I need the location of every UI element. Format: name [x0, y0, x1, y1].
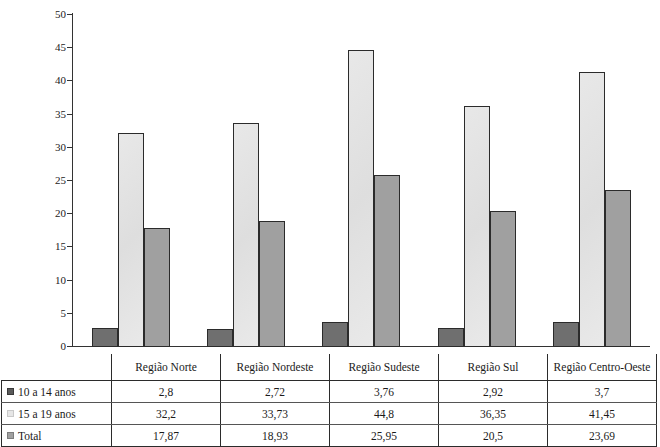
bar[interactable] [464, 106, 490, 347]
table-row: Total17,8718,9325,9520,523,69 [2, 425, 657, 447]
table-column-header: Região Nordeste [221, 354, 330, 381]
bar[interactable] [579, 72, 605, 347]
legend-cell: Total [2, 425, 112, 447]
table-column-header: Região Sudeste [330, 354, 439, 381]
y-axis-tick-labels: 50454035302520151050 [38, 0, 66, 355]
bar[interactable] [92, 328, 118, 347]
data-table: Região NorteRegião NordesteRegião Sudest… [1, 354, 657, 447]
table-cell-value: 18,93 [221, 425, 330, 447]
table-cell-value: 25,95 [330, 425, 439, 447]
table-row: 15 a 19 anos32,233,7344,836,3541,45 [2, 403, 657, 425]
bar[interactable] [438, 328, 464, 347]
table-cell-value: 36,35 [439, 403, 548, 425]
y-axis-tick-label: 45 [40, 42, 66, 52]
bar-group [535, 0, 650, 347]
legend-cell: 10 a 14 anos [2, 381, 112, 403]
table-cell-value: 44,8 [330, 403, 439, 425]
bar[interactable] [233, 123, 259, 347]
table-cell-value: 23,69 [548, 425, 657, 447]
legend-swatch-icon [7, 388, 14, 395]
y-axis-tick-label: 50 [40, 9, 66, 19]
legend-cell: 15 a 19 anos [2, 403, 112, 425]
bar[interactable] [322, 322, 348, 347]
bar[interactable] [118, 133, 144, 347]
table-cell-value: 17,87 [112, 425, 221, 447]
y-axis-tick-label: 20 [40, 208, 66, 218]
bar-group [73, 0, 188, 347]
table-cell-value: 3,7 [548, 381, 657, 403]
bar[interactable] [259, 221, 285, 347]
legend-label: 10 a 14 anos [18, 386, 76, 398]
y-axis-tick-label: 30 [40, 142, 66, 152]
table-cell-value: 32,2 [112, 403, 221, 425]
bar-group [304, 0, 419, 347]
data-table-wrapper: Região NorteRegião NordesteRegião Sudest… [0, 354, 660, 445]
y-axis-tick-label: 40 [40, 75, 66, 85]
bar-group [419, 0, 534, 347]
bar[interactable] [374, 175, 400, 347]
bar-group [188, 0, 303, 347]
bar[interactable] [144, 228, 170, 347]
legend-swatch-icon [7, 410, 14, 417]
table-corner-cell [2, 354, 112, 381]
y-axis-tick-label: 0 [40, 341, 66, 351]
table-cell-value: 33,73 [221, 403, 330, 425]
y-axis-tick-label: 10 [40, 275, 66, 285]
bar[interactable] [348, 50, 374, 347]
table-cell-value: 20,5 [439, 425, 548, 447]
legend-label: 15 a 19 anos [18, 408, 76, 420]
legend-swatch-icon [7, 432, 14, 439]
y-axis-tick-label: 15 [40, 241, 66, 251]
y-axis-tick-label: 35 [40, 109, 66, 119]
table-head: Região NorteRegião NordesteRegião Sudest… [2, 354, 657, 381]
table-row: 10 a 14 anos2,82,723,762,923,7 [2, 381, 657, 403]
plot-area [73, 0, 650, 347]
table-column-header: Região Norte [112, 354, 221, 381]
table-body: 10 a 14 anos2,82,723,762,923,715 a 19 an… [2, 381, 657, 447]
legend-label: Total [18, 430, 41, 442]
table-column-header: Região Centro-Oeste [548, 354, 657, 381]
y-axis-tick-label: 25 [40, 175, 66, 185]
table-cell-value: 2,92 [439, 381, 548, 403]
bar[interactable] [605, 190, 631, 347]
table-cell-value: 2,72 [221, 381, 330, 403]
bar-chart: 50454035302520151050 [0, 0, 660, 355]
table-cell-value: 41,45 [548, 403, 657, 425]
table-cell-value: 2,8 [112, 381, 221, 403]
bar[interactable] [490, 211, 516, 347]
table-cell-value: 3,76 [330, 381, 439, 403]
table-header-row: Região NorteRegião NordesteRegião Sudest… [2, 354, 657, 381]
y-axis-tick-label: 5 [40, 308, 66, 318]
table-column-header: Região Sul [439, 354, 548, 381]
bar[interactable] [207, 329, 233, 347]
bar[interactable] [553, 322, 579, 347]
